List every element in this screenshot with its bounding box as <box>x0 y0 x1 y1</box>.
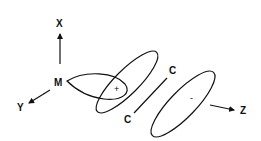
y-axis-arrow <box>29 90 50 103</box>
y-axis-label: Y <box>17 102 24 113</box>
positive-sign: + <box>114 84 119 94</box>
origin-label-m: M <box>54 77 62 88</box>
positive-p-lobe <box>89 44 165 120</box>
orbital-diagram: X Y M + C C - Z <box>0 0 261 141</box>
z-axis-label: Z <box>240 105 246 116</box>
carbon-label-bottom: C <box>124 114 131 125</box>
z-axis-arrow <box>210 105 234 110</box>
carbon-label-top: C <box>169 65 176 76</box>
x-axis-label: X <box>56 18 63 29</box>
negative-lobe <box>143 63 223 141</box>
negative-sign: - <box>190 93 193 103</box>
